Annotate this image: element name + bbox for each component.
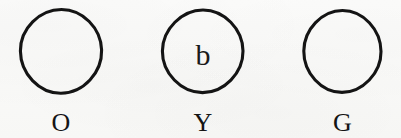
circle-item-o: O	[15, 0, 107, 138]
circle-outline-g	[298, 0, 387, 103]
circle-outline-o	[15, 0, 107, 103]
circle-inner-letter-b: b	[156, 40, 250, 70]
circle-caption-y: Y	[156, 110, 250, 136]
circle-caption-o: O	[15, 110, 107, 136]
circle-caption-g: G	[298, 110, 387, 136]
figure-root: O b Y G	[0, 0, 401, 138]
circle-item-g: G	[298, 0, 387, 138]
circle-item-y: b Y	[156, 0, 250, 138]
